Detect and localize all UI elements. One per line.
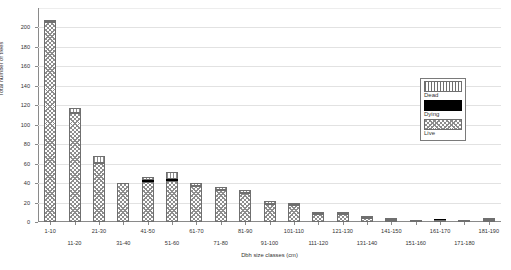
x-tick-mark <box>318 222 319 225</box>
bar-segment-live <box>264 204 276 222</box>
y-tick-label: 180 <box>0 44 30 50</box>
legend-item-dying: Dying <box>424 100 462 118</box>
x-tick-mark <box>172 222 173 225</box>
x-tick-mark <box>196 222 197 225</box>
x-axis-title: Dbh size classes (cm) <box>210 252 330 258</box>
x-tick-mark <box>270 222 271 225</box>
x-tick-label: 11-20 <box>55 240 95 246</box>
y-tick-label: 0 <box>0 219 30 225</box>
x-tick-label: 161-170 <box>420 228 460 234</box>
x-tick-mark <box>464 222 465 225</box>
x-tick-mark <box>391 222 392 225</box>
y-tick-label: 140 <box>0 83 30 89</box>
bar-group <box>337 212 349 222</box>
bar-group <box>288 203 300 222</box>
legend-item-live: Live <box>424 119 462 137</box>
y-tick-label: 200 <box>0 24 30 30</box>
bar-group <box>117 183 129 222</box>
y-tick-label: 40 <box>0 180 30 186</box>
x-tick-label: 21-30 <box>79 228 119 234</box>
bar-segment-live <box>142 182 154 222</box>
x-tick-mark <box>221 222 222 225</box>
bar-segment-live <box>93 163 105 222</box>
bar-segment-live <box>166 181 178 222</box>
x-tick-mark <box>489 222 490 225</box>
bar-group <box>215 187 227 222</box>
x-tick-label: 81-90 <box>225 228 265 234</box>
x-tick-label: 101-110 <box>274 228 314 234</box>
x-tick-mark <box>440 222 441 225</box>
x-tick-label: 121-130 <box>323 228 363 234</box>
bar-segment-live <box>312 214 324 222</box>
bar-group <box>69 108 81 222</box>
legend-label-live: Live <box>424 130 462 137</box>
bar-group <box>190 183 202 222</box>
x-tick-mark <box>50 222 51 225</box>
bar-segment-live <box>190 186 202 222</box>
bar-segment-dead <box>93 156 105 163</box>
legend-swatch-dying-icon <box>424 100 462 111</box>
x-tick-label: 111-120 <box>298 240 338 246</box>
x-tick-mark <box>367 222 368 225</box>
y-tick-label: 100 <box>0 122 30 128</box>
x-tick-label: 91-100 <box>250 240 290 246</box>
bar-segment-live <box>337 214 349 222</box>
bar-group <box>239 190 251 222</box>
bar-segment-live <box>69 113 81 222</box>
x-tick-label: 141-150 <box>371 228 411 234</box>
x-tick-mark <box>245 222 246 225</box>
legend-swatch-dead-icon <box>424 81 462 92</box>
x-tick-label: 31-40 <box>103 240 143 246</box>
x-tick-mark <box>123 222 124 225</box>
bar-group <box>142 177 154 222</box>
bar-segment-live <box>288 205 300 222</box>
x-tick-label: 71-80 <box>201 240 241 246</box>
bar-segment-live <box>239 193 251 222</box>
bar-group <box>44 20 56 222</box>
x-tick-label: 181-190 <box>469 228 509 234</box>
x-tick-label: 41-50 <box>128 228 168 234</box>
bar-group <box>166 172 178 222</box>
y-tick-label: 80 <box>0 141 30 147</box>
x-tick-label: 51-60 <box>152 240 192 246</box>
x-tick-label: 171-180 <box>444 240 484 246</box>
x-tick-mark <box>343 222 344 225</box>
x-tick-label: 61-70 <box>176 228 216 234</box>
x-tick-mark <box>75 222 76 225</box>
bar-segment-dead <box>166 172 178 179</box>
y-tick-label: 120 <box>0 102 30 108</box>
chart-container: 020406080100120140160180200 Total number… <box>0 0 511 270</box>
bar-segment-live <box>117 183 129 222</box>
legend-label-dead: Dead <box>424 92 462 99</box>
y-axis-title: Total number of trees <box>0 42 4 96</box>
bar-segment-live <box>44 22 56 222</box>
x-tick-mark <box>416 222 417 225</box>
legend-swatch-live-icon <box>424 119 462 130</box>
y-tick-label: 160 <box>0 63 30 69</box>
x-tick-label: 151-160 <box>396 240 436 246</box>
legend-label-dying: Dying <box>424 111 462 118</box>
bar-group <box>93 156 105 222</box>
y-tick-label: 20 <box>0 200 30 206</box>
bar-group <box>312 212 324 222</box>
legend-item-dead: Dead <box>424 81 462 99</box>
bar-group <box>264 201 276 222</box>
x-tick-mark <box>294 222 295 225</box>
x-tick-label: 131-140 <box>347 240 387 246</box>
x-tick-label: 1-10 <box>30 228 70 234</box>
chart-legend: Dead Dying Live <box>420 78 466 141</box>
x-tick-mark <box>148 222 149 225</box>
bar-segment-live <box>215 190 227 222</box>
y-tick-label: 60 <box>0 161 30 167</box>
x-tick-mark <box>99 222 100 225</box>
y-tick-mark <box>35 222 38 223</box>
